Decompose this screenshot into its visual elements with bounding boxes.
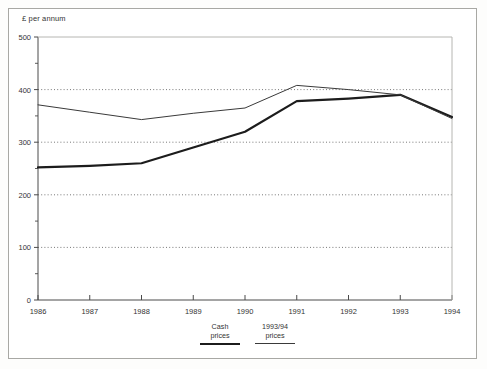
x-tick-label: 1986 xyxy=(18,307,58,316)
legend-label-line1: Cash xyxy=(212,322,229,331)
chart-figure: £ per annum 0100200300400500 19861987198… xyxy=(0,0,487,369)
series-line xyxy=(38,85,452,119)
y-tick-label: 100 xyxy=(7,243,31,252)
y-tick-label: 200 xyxy=(7,190,31,199)
x-tick-label: 1987 xyxy=(70,307,110,316)
axis-ticks xyxy=(34,37,452,300)
chart-legend: Cashprices1993/94prices xyxy=(198,322,297,345)
legend-label-line2: prices xyxy=(210,331,229,340)
legend-entry: 1993/94prices xyxy=(253,322,297,345)
x-tick-label: 1991 xyxy=(277,307,317,316)
y-tick-label: 500 xyxy=(7,33,31,42)
legend-label-line1: 1993/94 xyxy=(262,322,288,331)
axis-lines xyxy=(38,37,452,300)
x-tick-label: 1990 xyxy=(225,307,265,316)
y-tick-label: 0 xyxy=(7,296,31,305)
legend-line-swatch xyxy=(255,343,295,344)
y-tick-label: 400 xyxy=(7,85,31,94)
y-tick-label: 300 xyxy=(7,138,31,147)
x-tick-label: 1994 xyxy=(432,307,472,316)
legend-line-swatch xyxy=(200,343,240,345)
data-series xyxy=(38,85,452,167)
x-tick-label: 1993 xyxy=(380,307,420,316)
series-line xyxy=(38,95,452,168)
x-tick-label: 1992 xyxy=(329,307,369,316)
x-tick-label: 1989 xyxy=(173,307,213,316)
legend-label-line2: prices xyxy=(265,331,284,340)
x-tick-label: 1988 xyxy=(122,307,162,316)
legend-entry: Cashprices xyxy=(198,322,242,345)
